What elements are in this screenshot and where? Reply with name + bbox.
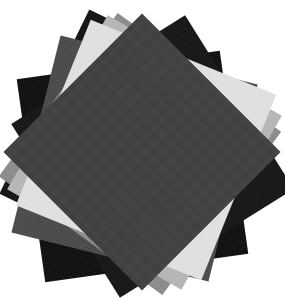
- swatch-stack: [0, 0, 285, 301]
- image-canvas: [0, 0, 285, 301]
